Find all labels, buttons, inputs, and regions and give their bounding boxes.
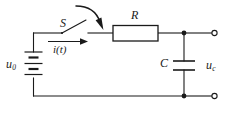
output-voltage-label: uc xyxy=(206,59,216,73)
circuit-schematic xyxy=(0,0,228,117)
switch-pointer-head xyxy=(96,18,104,30)
node-bottom-right-dot xyxy=(182,94,187,99)
circuit-diagram-canvas: u0 i(t) S R C uc xyxy=(0,0,228,117)
resistor-body xyxy=(113,26,158,42)
switch-pivot xyxy=(61,32,63,34)
capacitor-symbol xyxy=(173,61,195,70)
node-top-right-dot xyxy=(182,31,187,36)
switch-pointer-curve xyxy=(76,6,100,22)
battery-symbol xyxy=(25,52,43,75)
capacitor-label: C xyxy=(160,57,168,69)
terminal-bottom-open-circle[interactable] xyxy=(212,93,217,98)
current-label: i(t) xyxy=(53,44,66,55)
switch-label: S xyxy=(60,17,66,29)
resistor-label: R xyxy=(131,9,138,21)
terminal-top-open-circle[interactable] xyxy=(212,30,217,35)
current-arrow-head xyxy=(80,38,88,44)
source-voltage-label: u0 xyxy=(6,58,16,72)
switch-pointer-arrow xyxy=(76,6,103,30)
